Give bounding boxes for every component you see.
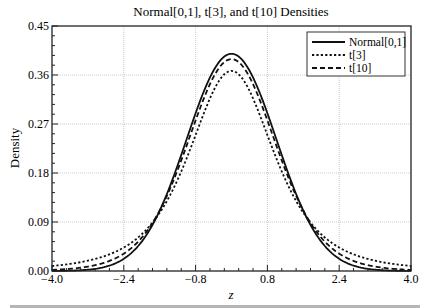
legend-label-t10: t[10] xyxy=(349,62,371,74)
curve-t-10- xyxy=(52,59,411,270)
y-tick-label: 0.18 xyxy=(28,166,49,180)
legend: Normal[0,1] t[3] t[10] xyxy=(307,32,406,76)
curve-normal-0-1- xyxy=(52,54,411,271)
x-tick-label: 4.0 xyxy=(404,272,419,286)
density-chart: Normal[0,1], t[3], and t[10] Densities 0… xyxy=(0,0,429,308)
x-tick-label: 0.8 xyxy=(260,272,275,286)
legend-label-t3: t[3] xyxy=(349,49,366,61)
x-tick-label: −4.0 xyxy=(41,272,63,286)
curve-t-3- xyxy=(52,71,411,266)
x-tick-labels: −4.0−2.4−0.80.82.44.0 xyxy=(41,272,418,286)
x-tick-label: −0.8 xyxy=(185,272,207,286)
density-curves xyxy=(52,54,411,271)
legend-label-normal: Normal[0,1] xyxy=(349,36,406,49)
y-tick-label: 0.36 xyxy=(28,68,49,82)
y-tick-label: 0.09 xyxy=(28,215,49,229)
x-tick-label: 2.4 xyxy=(332,272,347,286)
y-axis-label: Density xyxy=(7,127,22,168)
y-tick-label: 0.27 xyxy=(28,117,49,131)
x-tick-label: −2.4 xyxy=(113,272,135,286)
chart-title: Normal[0,1], t[3], and t[10] Densities xyxy=(133,4,328,19)
y-tick-labels: 0.000.090.180.270.360.45 xyxy=(28,19,49,278)
y-tick-label: 0.45 xyxy=(28,19,49,33)
x-axis-label: z xyxy=(227,287,233,302)
